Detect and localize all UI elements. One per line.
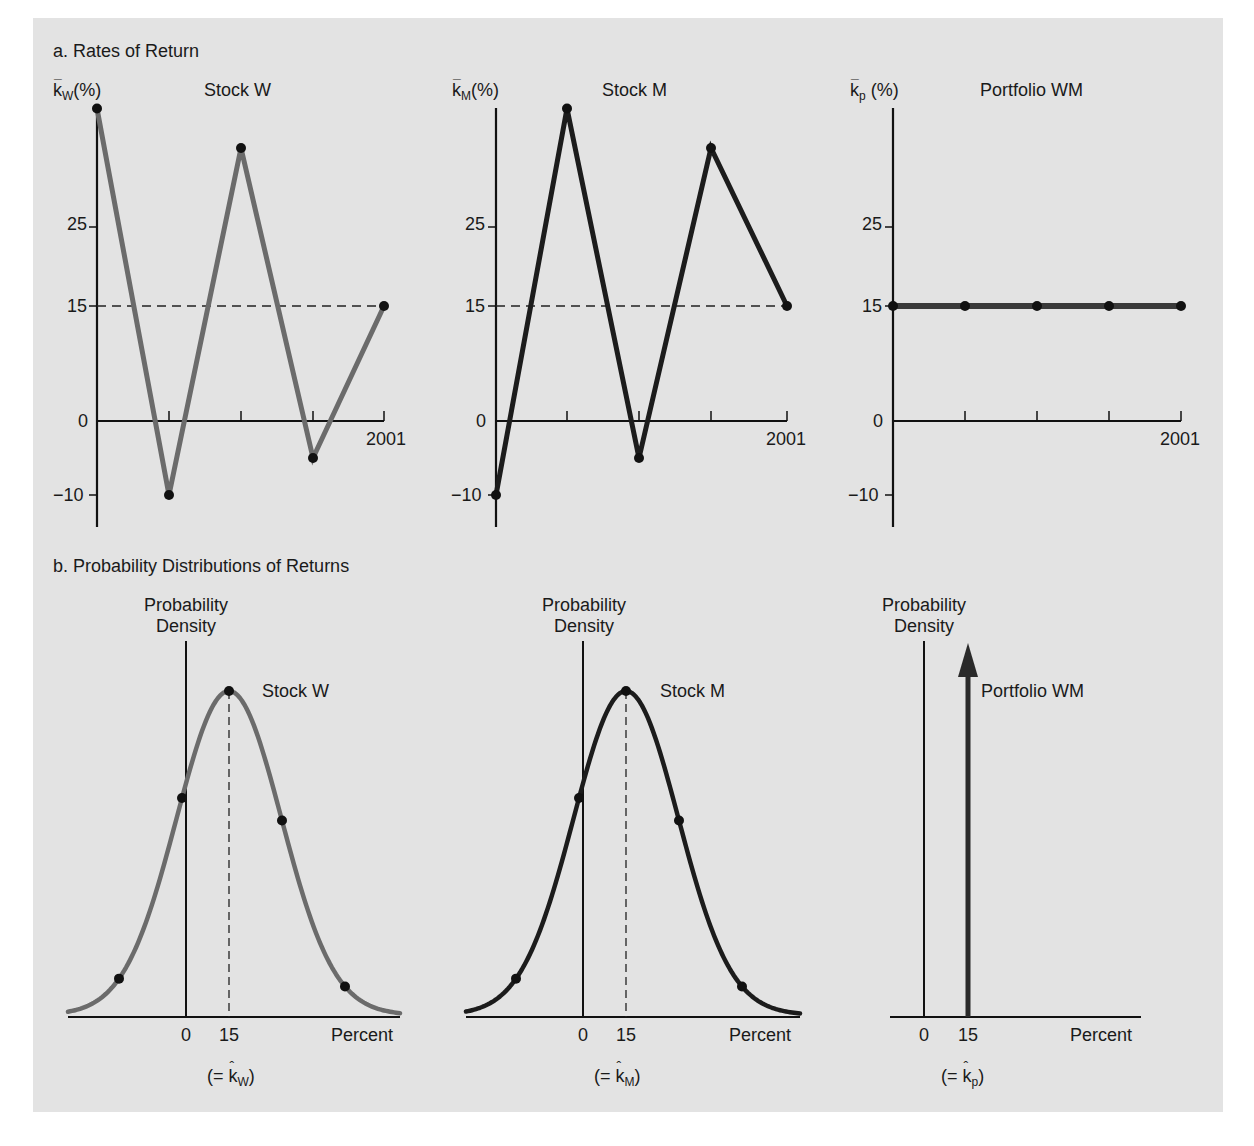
data-point-marker xyxy=(1032,301,1042,311)
figure-panel: a. Rates of Return b. Probability Distri… xyxy=(33,18,1223,1112)
data-point-marker xyxy=(491,490,501,500)
y-axis-label-line2: Density xyxy=(524,616,644,636)
x-end-year-label: 2001 xyxy=(766,429,806,449)
y-tick-minus-10: −10 xyxy=(848,485,879,505)
hat-accent: ˆ xyxy=(617,1060,622,1074)
x-tick-0: 0 xyxy=(181,1025,191,1045)
y-axis-label-line2: Density xyxy=(864,616,984,636)
data-point-marker xyxy=(574,793,584,803)
section-a-title: a. Rates of Return xyxy=(53,41,199,61)
x-tick-15: 15 xyxy=(219,1025,239,1045)
y-tick-minus-10: −10 xyxy=(53,485,84,505)
y-axis-label-line1: Probability xyxy=(524,595,644,615)
hat-accent: ˆ xyxy=(230,1060,235,1074)
data-point-marker xyxy=(236,143,246,153)
y-tick-15: 15 xyxy=(862,296,882,316)
data-point-marker xyxy=(634,453,644,463)
x-axis-label: Percent xyxy=(1070,1025,1132,1045)
x-axis-label: Percent xyxy=(729,1025,791,1045)
data-point-marker xyxy=(782,301,792,311)
series-label: Stock W xyxy=(262,681,329,701)
data-point-marker xyxy=(511,974,521,984)
data-point-marker xyxy=(114,974,124,984)
hat-accent: ˆ xyxy=(964,1060,969,1074)
y-tick-15: 15 xyxy=(67,296,87,316)
data-point-marker xyxy=(1176,301,1186,311)
x-end-year-label: 2001 xyxy=(1160,429,1200,449)
data-point-marker xyxy=(960,301,970,311)
y-axis-label-line2: Density xyxy=(126,616,246,636)
series-label: Stock M xyxy=(660,681,725,701)
y-tick-0: 0 xyxy=(78,411,88,431)
y-axis-label-line1: Probability xyxy=(126,595,246,615)
data-point-marker xyxy=(737,981,747,991)
y-axis-label: ¯kp (%) xyxy=(850,80,899,100)
bar-accent: ¯ xyxy=(54,78,62,92)
data-point-marker xyxy=(888,301,898,311)
y-axis-label-line1: Probability xyxy=(864,595,984,615)
y-tick-0: 0 xyxy=(873,411,883,431)
density-curve xyxy=(68,691,400,1013)
series-line xyxy=(496,109,787,496)
y-tick-0: 0 xyxy=(476,411,486,431)
data-point-marker xyxy=(379,301,389,311)
data-point-marker xyxy=(674,815,684,825)
y-tick-minus-10: −10 xyxy=(451,485,482,505)
y-tick-25: 25 xyxy=(465,214,485,234)
x-tick-15: 15 xyxy=(958,1025,978,1045)
chart-title: Portfolio WM xyxy=(980,80,1083,100)
bar-accent: ¯ xyxy=(453,78,461,92)
density-curve xyxy=(466,691,800,1013)
expected-return-annotation: (= ˆkW) xyxy=(207,1066,255,1086)
data-point-marker xyxy=(164,490,174,500)
data-point-marker xyxy=(277,815,287,825)
data-point-marker xyxy=(562,104,572,114)
x-tick-0: 0 xyxy=(919,1025,929,1045)
section-b-title: b. Probability Distributions of Returns xyxy=(53,556,349,576)
y-axis-label: ¯kM(%) xyxy=(452,80,499,100)
arrow-up-icon xyxy=(958,643,978,677)
data-point-marker xyxy=(177,793,187,803)
x-tick-15: 15 xyxy=(616,1025,636,1045)
x-tick-0: 0 xyxy=(578,1025,588,1045)
chart-title: Stock M xyxy=(602,80,667,100)
y-axis-label: ¯kW(%) xyxy=(53,80,101,100)
series-line xyxy=(97,109,384,496)
series-label: Portfolio WM xyxy=(981,681,1084,701)
expected-return-annotation: (= ˆkp) xyxy=(941,1066,984,1086)
x-axis-label: Percent xyxy=(331,1025,393,1045)
data-point-marker xyxy=(92,104,102,114)
expected-return-annotation: (= ˆkM) xyxy=(594,1066,641,1086)
bar-accent: ¯ xyxy=(851,78,859,92)
y-tick-25: 25 xyxy=(862,214,882,234)
data-point-marker xyxy=(1104,301,1114,311)
y-tick-25: 25 xyxy=(67,214,87,234)
data-point-marker xyxy=(340,981,350,991)
x-end-year-label: 2001 xyxy=(366,429,406,449)
data-point-marker xyxy=(308,453,318,463)
y-tick-15: 15 xyxy=(465,296,485,316)
data-point-marker xyxy=(706,143,716,153)
chart-title: Stock W xyxy=(204,80,271,100)
data-point-marker xyxy=(224,686,234,696)
data-point-marker xyxy=(621,686,631,696)
